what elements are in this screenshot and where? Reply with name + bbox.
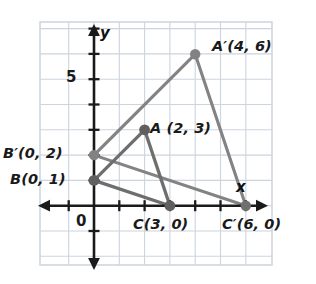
point-label-c: C(3, 0) xyxy=(133,216,188,232)
point-marker-c xyxy=(165,200,176,211)
point-label-b: B(0, 1) xyxy=(10,171,66,187)
point-marker-a xyxy=(139,124,150,135)
point-marker-b xyxy=(89,175,100,186)
x-axis-label: x xyxy=(236,178,246,196)
point-marker-c-prime xyxy=(241,201,251,211)
origin-label: 0 xyxy=(76,212,86,230)
point-marker-a-prime xyxy=(190,49,200,59)
point-label-a: A (2, 3) xyxy=(150,120,211,136)
point-marker-b-prime xyxy=(89,150,99,160)
y-tick-label-5: 5 xyxy=(66,68,76,86)
y-axis-label: y xyxy=(100,24,110,42)
coordinate-plane-figure: A (2, 3) A′(4, 6) B(0, 1) B′(0, 2) C(3, … xyxy=(0,0,316,284)
point-label-b-prime: B′(0, 2) xyxy=(3,145,63,161)
point-label-a-prime: A′(4, 6) xyxy=(212,38,272,54)
point-label-c-prime: C′(6, 0) xyxy=(222,216,281,232)
